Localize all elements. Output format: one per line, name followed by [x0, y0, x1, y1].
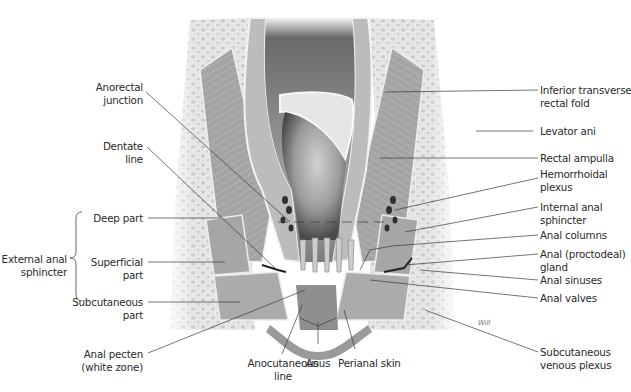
label-superficial-part: Superficial part	[91, 256, 143, 281]
left-anal-gland	[262, 265, 286, 272]
label-anal-pecten: Anal pecten (white zone)	[81, 348, 143, 373]
label-perianal-skin: Perianal skin	[338, 357, 401, 370]
label-subcutaneous-part: Subcutaneous part	[72, 296, 143, 321]
left-subcutaneous-sphincter	[214, 272, 288, 320]
label-levator-ani: Levator ani	[540, 125, 596, 138]
label-internal-anal-sphincter: Internal anal sphincter	[540, 201, 602, 226]
label-anal-gland: Anal (proctodeal) gland	[540, 248, 626, 273]
label-anal-sinuses: Anal sinuses	[540, 274, 602, 287]
anal-canal	[296, 285, 338, 330]
label-external-anal-sphincter: External anal sphincter	[2, 253, 67, 278]
external-sphincter-brace	[70, 212, 82, 301]
label-hemorrhoidal-plexus: Hemorrhoidal plexus	[540, 168, 608, 193]
label-anal-valves: Anal valves	[540, 292, 597, 305]
label-subcutaneous-venous-plexus: Subcutaneous venous plexus	[540, 346, 611, 371]
label-deep-part: Deep part	[93, 212, 143, 225]
label-rectal-ampulla: Rectal ampulla	[540, 152, 614, 165]
label-anorectal-junction: Anorectal junction	[96, 81, 143, 106]
right-subcutaneous-sphincter	[336, 272, 410, 320]
label-anus: Anus	[298, 357, 338, 370]
label-dentate-line: Dentate line	[103, 140, 143, 165]
right-deep-external-sphincter	[374, 215, 418, 275]
artist-signature: Will	[478, 317, 490, 330]
label-inferior-transverse-rectal-fold: Inferior transverse rectal fold	[540, 84, 631, 109]
label-anal-columns: Anal columns	[540, 229, 607, 242]
anus-skin	[266, 325, 372, 360]
